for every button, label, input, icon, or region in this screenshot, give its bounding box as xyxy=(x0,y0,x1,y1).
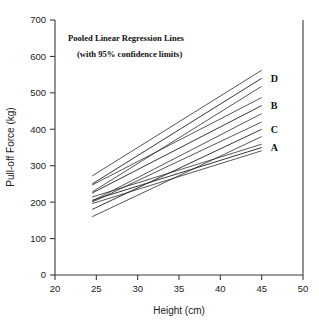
x-tick-label: 25 xyxy=(91,283,102,294)
ci-lower-line xyxy=(92,151,261,204)
series-C xyxy=(92,122,261,217)
regression-line xyxy=(92,148,261,201)
series-B xyxy=(92,98,261,201)
ci-lower-line xyxy=(92,86,261,192)
series-label-D: D xyxy=(271,73,278,84)
y-tick-label: 0 xyxy=(41,269,46,280)
x-tick-label: 20 xyxy=(50,283,61,294)
x-tick-label: 50 xyxy=(298,283,309,294)
x-tick-label: 30 xyxy=(132,283,143,294)
ci-upper-line xyxy=(92,122,261,202)
y-tick-label: 100 xyxy=(30,233,46,244)
y-tick-label: 200 xyxy=(30,197,46,208)
regression-line xyxy=(92,106,261,193)
y-tick-label: 400 xyxy=(30,124,46,135)
y-tick-label: 500 xyxy=(30,87,46,98)
series-layer xyxy=(92,70,261,216)
x-axis-title: Height (cm) xyxy=(153,305,205,316)
series-A xyxy=(92,144,261,203)
series-label-B: B xyxy=(271,100,278,111)
y-tick-label: 600 xyxy=(30,51,46,62)
regression-chart: 0100200300400500600700 20253035404550 DB… xyxy=(0,0,319,325)
chart-subtitle: (with 95% confidence limits) xyxy=(77,49,182,59)
y-axis-ticks: 0100200300400500600700 xyxy=(30,14,55,280)
ci-lower-line xyxy=(92,137,261,217)
series-label-A: A xyxy=(271,142,279,153)
series-labels: DBCA xyxy=(271,73,279,153)
ci-upper-line xyxy=(92,144,261,197)
series-label-C: C xyxy=(271,124,278,135)
ci-upper-line xyxy=(92,70,261,176)
x-tick-label: 45 xyxy=(256,283,267,294)
y-tick-label: 300 xyxy=(30,160,46,171)
y-axis-title: Pull-off Force (kg) xyxy=(5,107,16,186)
y-tick-label: 700 xyxy=(30,14,46,25)
regression-line xyxy=(92,78,261,184)
x-axis-ticks: 20253035404550 xyxy=(50,275,309,294)
chart-title: Pooled Linear Regression Lines xyxy=(68,33,185,43)
ci-lower-line xyxy=(92,114,261,201)
chart-canvas: 0100200300400500600700 20253035404550 DB… xyxy=(0,0,319,325)
x-tick-label: 35 xyxy=(174,283,185,294)
x-tick-label: 40 xyxy=(215,283,226,294)
